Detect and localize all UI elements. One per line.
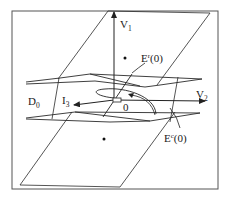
label-d0: D0 <box>28 95 40 110</box>
origin-marker <box>113 98 121 102</box>
label-origin: 0 <box>123 101 129 113</box>
phase-space-diagram: V1 V2 D0 I3 0 Er(0) Ec(0) <box>0 0 227 203</box>
lower-fixed-point <box>103 138 106 141</box>
label-v1: V1 <box>120 18 132 33</box>
er-leader <box>132 63 145 73</box>
upper-fixed-point <box>124 57 127 60</box>
upper-tilted-plane <box>58 11 210 85</box>
label-i3: I3 <box>62 94 70 109</box>
ec-arc-arrow <box>131 95 155 115</box>
i3-axis-arrow <box>74 100 114 105</box>
label-ec: Ec(0) <box>164 132 187 145</box>
label-er: Er(0) <box>141 52 163 65</box>
lower-tilted-plane <box>20 112 175 187</box>
